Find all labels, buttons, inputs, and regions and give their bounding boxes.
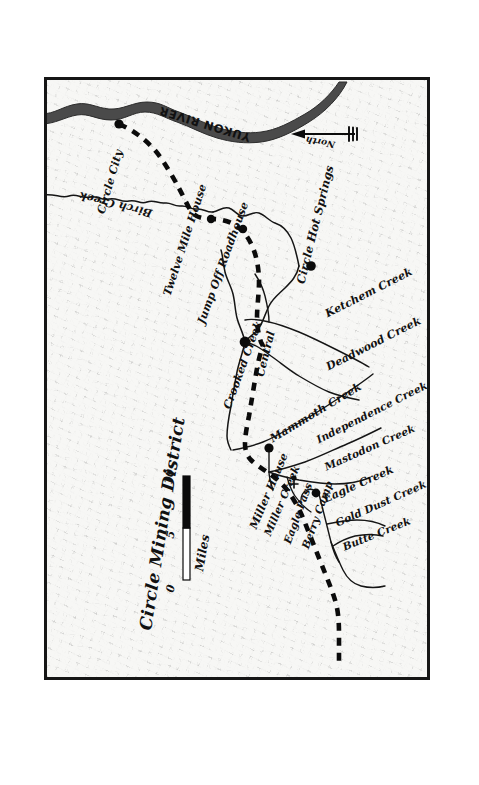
map-frame: YUKON RIVER Circle City Birch Creek Twel… (44, 77, 430, 680)
scale-tick-10: 10 (162, 468, 177, 485)
dot-twelve-mile-house (207, 215, 215, 223)
scale-bar-graphic (183, 476, 190, 580)
dot-miller-house (264, 443, 273, 452)
lower-creek-path (331, 542, 385, 588)
dot-circle-city (114, 119, 123, 128)
map-page: YUKON RIVER Circle City Birch Creek Twel… (0, 0, 479, 785)
